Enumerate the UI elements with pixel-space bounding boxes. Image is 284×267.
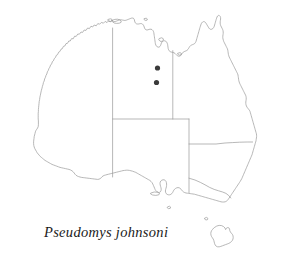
- small-island-nt-coast: [144, 18, 147, 20]
- tasmania: [211, 225, 233, 246]
- distribution-map-figure: Pseudomys johnsoni: [0, 0, 284, 267]
- mornington-island: [178, 53, 181, 56]
- species-caption: Pseudomys johnsoni: [44, 224, 214, 241]
- bathurst-island: [108, 19, 112, 22]
- nsw-vic-border: [189, 178, 231, 198]
- groote-eylandt: [159, 38, 163, 42]
- small-island-sa: [167, 206, 170, 208]
- occurrence-dot-1: [155, 65, 160, 70]
- mainland-coastline: [34, 15, 257, 202]
- qld-nsw-border: [189, 142, 253, 144]
- occurrence-dot-2: [154, 80, 159, 85]
- kangaroo-island: [151, 192, 160, 195]
- king-island: [205, 217, 208, 220]
